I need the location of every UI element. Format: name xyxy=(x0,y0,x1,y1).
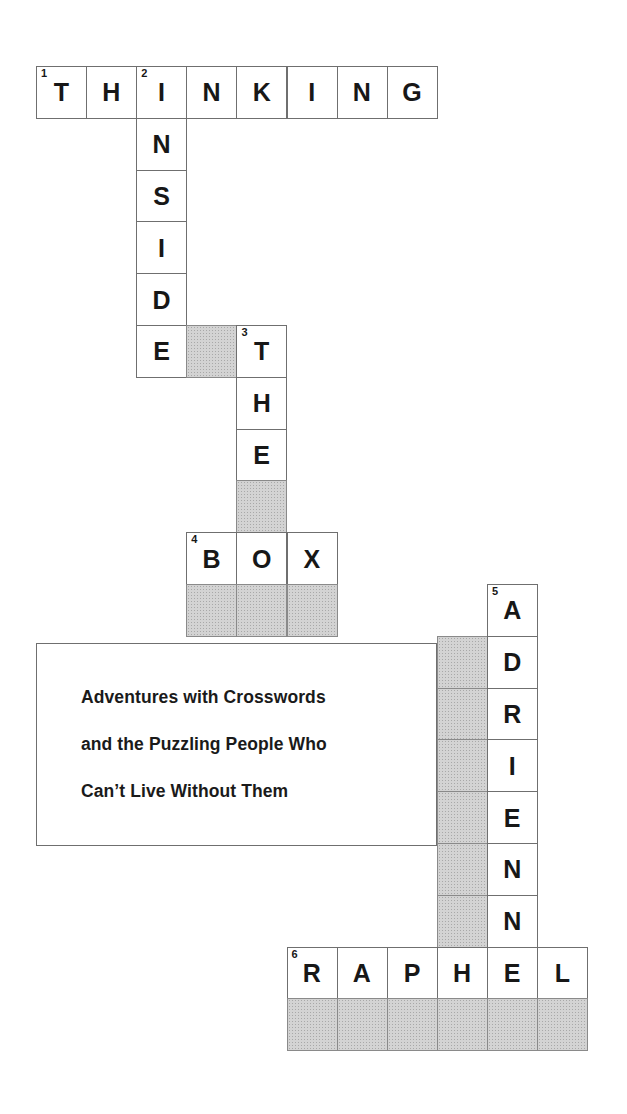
grid-cell[interactable]: N xyxy=(186,66,237,119)
cell-letter: I xyxy=(137,235,186,260)
cell-letter: D xyxy=(137,287,186,312)
grid-cell[interactable]: 6R xyxy=(287,947,338,1000)
grid-cell[interactable]: L xyxy=(537,947,588,1000)
grid-cell[interactable]: I xyxy=(136,221,187,274)
cell-letter: L xyxy=(538,960,587,985)
cell-letter: E xyxy=(237,442,286,467)
grid-cell-blocked xyxy=(487,998,538,1051)
grid-cell[interactable]: 4B xyxy=(186,532,237,585)
grid-cell-blocked xyxy=(437,739,488,792)
cell-letter: E xyxy=(488,805,537,830)
grid-cell-blocked xyxy=(236,584,287,637)
cell-letter: A xyxy=(338,960,387,985)
grid-cell[interactable]: D xyxy=(136,273,187,326)
grid-cell-blocked xyxy=(337,998,388,1051)
grid-cell-blocked xyxy=(236,480,287,533)
grid-cell-blocked xyxy=(437,895,488,948)
cell-letter: E xyxy=(488,960,537,985)
cell-letter: R xyxy=(288,960,337,985)
cell-letter: S xyxy=(137,183,186,208)
cell-letter: K xyxy=(237,80,286,105)
cell-letter: N xyxy=(488,909,537,934)
grid-cell[interactable]: X xyxy=(287,532,338,585)
grid-cell[interactable]: O xyxy=(236,532,287,585)
grid-cell[interactable]: R xyxy=(487,688,538,741)
grid-cell[interactable]: S xyxy=(136,170,187,223)
cell-clue-number: 1 xyxy=(41,68,47,79)
cell-letter: H xyxy=(87,80,136,105)
grid-cell[interactable]: H xyxy=(437,947,488,1000)
grid-cell[interactable]: N xyxy=(337,66,388,119)
cell-clue-number: 5 xyxy=(492,586,498,597)
cell-letter: O xyxy=(237,546,286,571)
cell-letter: P xyxy=(388,960,437,985)
grid-cell[interactable]: D xyxy=(487,636,538,689)
cell-letter: G xyxy=(388,80,437,105)
grid-cell[interactable]: 1T xyxy=(36,66,87,119)
cell-letter: N xyxy=(338,80,387,105)
grid-cell-blocked xyxy=(186,325,237,378)
subtitle-line-3: Can’t Live Without Them xyxy=(81,768,436,815)
cell-letter: A xyxy=(488,598,537,623)
grid-cell[interactable]: E xyxy=(136,325,187,378)
grid-cell-blocked xyxy=(186,584,237,637)
grid-cell[interactable]: E xyxy=(487,791,538,844)
grid-cell[interactable]: G xyxy=(387,66,438,119)
cell-letter: E xyxy=(137,339,186,364)
grid-cell[interactable]: 2I xyxy=(136,66,187,119)
cell-clue-number: 2 xyxy=(141,68,147,79)
cell-letter: I xyxy=(137,80,186,105)
cell-letter: R xyxy=(488,701,537,726)
grid-cell-blocked xyxy=(387,998,438,1051)
grid-cell-blocked xyxy=(437,791,488,844)
subtitle-line-2: and the Puzzling People Who xyxy=(81,721,436,768)
cell-letter: H xyxy=(438,960,487,985)
grid-cell-blocked xyxy=(287,584,338,637)
cell-letter: D xyxy=(488,650,537,675)
grid-cell[interactable]: A xyxy=(337,947,388,1000)
cell-letter: T xyxy=(37,80,86,105)
grid-cell[interactable]: N xyxy=(136,118,187,171)
cell-letter: N xyxy=(137,132,186,157)
grid-cell[interactable]: I xyxy=(487,739,538,792)
crossword-puzzle-grid: 1TH2INKINGNSIDE3THE4BOX5ADRIENN6RAPHEL xyxy=(0,0,627,1114)
subtitle-text-box: Adventures with Crosswords and the Puzzl… xyxy=(36,643,437,846)
grid-cell-blocked xyxy=(537,998,588,1051)
grid-cell[interactable]: 5A xyxy=(487,584,538,637)
cell-clue-number: 3 xyxy=(241,327,247,338)
cell-letter: N xyxy=(488,857,537,882)
grid-cell[interactable]: E xyxy=(487,947,538,1000)
grid-cell[interactable]: E xyxy=(236,429,287,482)
subtitle-line-1: Adventures with Crosswords xyxy=(81,674,436,721)
cell-letter: I xyxy=(288,80,337,105)
grid-cell-blocked xyxy=(437,843,488,896)
grid-cell[interactable]: I xyxy=(287,66,338,119)
grid-cell[interactable]: P xyxy=(387,947,438,1000)
grid-cell[interactable]: H xyxy=(86,66,137,119)
grid-cell-blocked xyxy=(437,998,488,1051)
cell-letter: H xyxy=(237,391,286,416)
grid-cell[interactable]: H xyxy=(236,377,287,430)
grid-cell-blocked xyxy=(437,688,488,741)
grid-cell[interactable]: N xyxy=(487,895,538,948)
cell-letter: T xyxy=(237,339,286,364)
cell-letter: B xyxy=(187,546,236,571)
cell-letter: N xyxy=(187,80,236,105)
cell-letter: I xyxy=(488,753,537,778)
grid-cell[interactable]: 3T xyxy=(236,325,287,378)
grid-cell-blocked xyxy=(437,636,488,689)
cell-letter: X xyxy=(288,546,337,571)
cell-clue-number: 4 xyxy=(191,534,197,545)
grid-cell[interactable]: N xyxy=(487,843,538,896)
grid-cell-blocked xyxy=(287,998,338,1051)
cell-clue-number: 6 xyxy=(292,949,298,960)
grid-cell[interactable]: K xyxy=(236,66,287,119)
